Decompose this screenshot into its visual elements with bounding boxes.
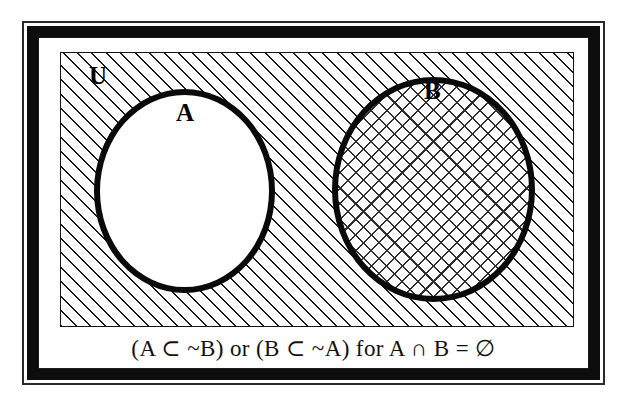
set-label-a: A — [176, 100, 194, 125]
diagram-canvas: U A B (A ⊂ ~B) or (B ⊂ ~A) for A ∩ B = ∅ — [39, 38, 588, 368]
set-circle-b — [332, 77, 535, 302]
figure-caption: (A ⊂ ~B) or (B ⊂ ~A) for A ∩ B = ∅ — [39, 335, 588, 362]
universe-label: U — [89, 63, 107, 88]
venn-diagram-figure: U A B (A ⊂ ~B) or (B ⊂ ~A) for A ∩ B = ∅ — [0, 0, 627, 406]
set-label-b: B — [424, 78, 441, 103]
